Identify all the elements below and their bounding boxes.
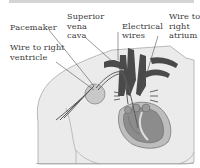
label-wire-right-atrium-line1: Wire to (169, 12, 200, 21)
label-wire-right-ventricle-line2: ventricle (10, 53, 48, 62)
pacemaker-device (85, 84, 105, 104)
label-superior-vena-cava-line1: Superior (67, 12, 104, 21)
label-pacemaker: Pacemaker (10, 23, 57, 32)
label-superior-vena-cava-line3: cava (67, 31, 86, 40)
label-wire-right-ventricle-line1: Wire to right (10, 43, 65, 52)
label-electrical-wires-line2: wires (122, 31, 145, 40)
label-wire-right-atrium-line3: atrium (169, 31, 197, 40)
